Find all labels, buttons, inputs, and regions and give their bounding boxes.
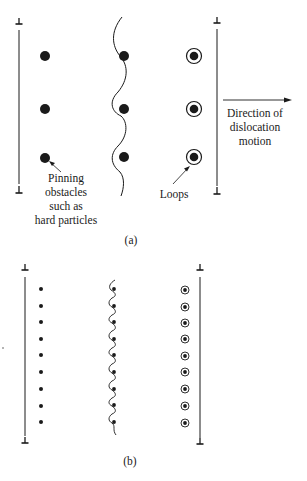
panel-b-caption: (b) bbox=[123, 455, 137, 468]
pinning-label-line-4: hard particles bbox=[35, 214, 98, 227]
panel-a-caption: (a) bbox=[125, 234, 138, 247]
pinning-obstacles-middle-a bbox=[119, 51, 129, 162]
panel-a-labels: Pinning obstacles such as hard particles… bbox=[35, 107, 283, 247]
left-dislocation-a bbox=[16, 18, 23, 193]
pinning-label-line-2: obstacles bbox=[45, 186, 88, 198]
pinning-label-line-1: Pinning bbox=[48, 172, 84, 185]
direction-label-line-3: motion bbox=[239, 135, 272, 147]
left-dislocation-b bbox=[22, 264, 29, 443]
right-dislocation-b bbox=[197, 264, 204, 444]
right-dislocation-a bbox=[214, 17, 221, 194]
direction-arrow bbox=[223, 98, 292, 103]
pinning-obstacles-b bbox=[39, 287, 43, 424]
loops-b bbox=[181, 286, 189, 427]
direction-label-line-2: dislocation bbox=[230, 121, 281, 133]
panel-b bbox=[2, 264, 203, 444]
pinning-obstacles-a bbox=[40, 51, 50, 163]
direction-label-line-1: Direction of bbox=[227, 107, 283, 119]
loops-label: Loops bbox=[160, 188, 189, 201]
loops-a bbox=[187, 49, 202, 165]
stray-mark bbox=[2, 347, 4, 349]
pinning-pointer-arrow bbox=[49, 161, 61, 172]
bowing-dislocation-b bbox=[109, 280, 116, 435]
loops-pointer-arrow bbox=[173, 166, 190, 184]
dislocation-pinning-diagram: Pinning obstacles such as hard particles… bbox=[0, 0, 307, 481]
pinning-label-line-3: such as bbox=[49, 200, 83, 212]
